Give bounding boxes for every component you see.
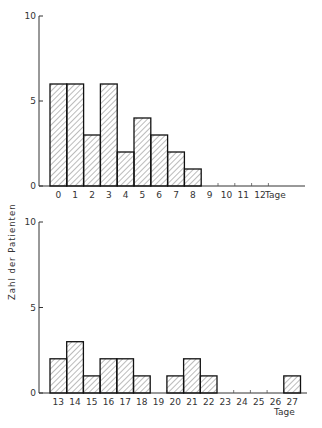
x-tick-label: 22 <box>203 397 214 407</box>
x-tick-label: 20 <box>170 397 182 407</box>
x-axis-label: Tage <box>264 190 286 200</box>
x-tick-label: 4 <box>123 190 129 200</box>
histogram-bar <box>100 359 117 393</box>
x-tick-label: 0 <box>56 190 62 200</box>
x-tick-label: 19 <box>153 397 165 407</box>
histogram-bar <box>184 169 201 186</box>
histogram-bar <box>134 376 151 393</box>
x-tick-label: 1 <box>72 190 78 200</box>
x-tick-label: 7 <box>173 190 179 200</box>
histogram-figure: 05100123456789101112Tage 051013141516171… <box>0 0 322 428</box>
x-tick-label: 14 <box>69 397 81 407</box>
x-tick-label: 11 <box>237 190 248 200</box>
x-tick-label: 10 <box>221 190 233 200</box>
histogram-bar <box>117 152 134 186</box>
histogram-bar <box>134 118 151 186</box>
histogram-bar <box>67 342 84 393</box>
histogram-bar <box>184 359 201 393</box>
histogram-bar <box>200 376 217 393</box>
histogram-bar <box>83 376 100 393</box>
histogram-bar <box>50 359 67 393</box>
y-tick-label: 10 <box>25 11 37 21</box>
x-tick-label: 12 <box>254 190 265 200</box>
histogram-bar <box>284 376 301 393</box>
histogram-bar <box>168 152 185 186</box>
x-tick-label: 27 <box>286 397 297 407</box>
x-tick-label: 24 <box>236 397 248 407</box>
x-tick-label: 9 <box>207 190 213 200</box>
x-tick-label: 23 <box>220 397 231 407</box>
chart-bottom: 0510131415161718192021222324252627Tage <box>25 217 307 417</box>
x-tick-label: 16 <box>103 397 115 407</box>
y-axis-label: Zahl der Patienten <box>7 203 17 300</box>
chart-top: 05100123456789101112Tage <box>25 11 305 200</box>
y-tick-label: 5 <box>30 96 36 106</box>
x-axis-label: Tage <box>273 407 295 417</box>
histogram-bar <box>117 359 134 393</box>
x-tick-label: 3 <box>106 190 112 200</box>
y-tick-label: 10 <box>25 217 37 227</box>
x-tick-label: 17 <box>119 397 130 407</box>
histogram-bar <box>100 84 117 186</box>
x-tick-label: 26 <box>270 397 282 407</box>
histogram-bar <box>50 84 67 186</box>
x-tick-label: 5 <box>140 190 146 200</box>
x-tick-label: 15 <box>86 397 97 407</box>
y-tick-label: 0 <box>30 388 36 398</box>
x-tick-label: 6 <box>156 190 162 200</box>
x-tick-label: 13 <box>53 397 64 407</box>
x-tick-label: 18 <box>136 397 148 407</box>
histogram-bar <box>67 84 84 186</box>
x-tick-label: 21 <box>186 397 197 407</box>
y-tick-label: 5 <box>30 303 36 313</box>
x-tick-label: 2 <box>89 190 95 200</box>
x-tick-label: 8 <box>190 190 196 200</box>
y-tick-label: 0 <box>30 181 36 191</box>
histogram-bar <box>167 376 184 393</box>
histogram-bar <box>151 135 168 186</box>
x-tick-label: 25 <box>253 397 264 407</box>
histogram-bar <box>84 135 101 186</box>
